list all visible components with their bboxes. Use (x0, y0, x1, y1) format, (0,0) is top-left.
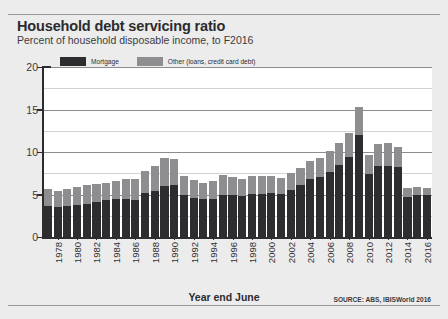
bar-stack (238, 179, 246, 237)
bar-segment-other (394, 147, 402, 167)
x-tick-mark (213, 237, 214, 240)
source-note: SOURCE: ABS, IBISWorld 2016 (334, 296, 431, 303)
bar-segment-other (355, 107, 363, 135)
bar-segment-other (238, 179, 246, 196)
bar-column[interactable] (43, 67, 53, 237)
bar-column[interactable] (412, 67, 422, 237)
bar-column[interactable] (53, 67, 63, 237)
bar-column[interactable] (101, 67, 111, 237)
bar-column[interactable] (237, 67, 247, 237)
bar-segment-other (92, 184, 100, 202)
bar-stack (326, 151, 334, 237)
bar-column[interactable] (315, 67, 325, 237)
x-label-column (43, 240, 53, 288)
bar-stack (228, 177, 236, 237)
bar-segment-mortgage (296, 185, 304, 237)
bar-column[interactable] (208, 67, 218, 237)
x-tick-mark (77, 237, 78, 240)
legend-swatch-icon (60, 57, 86, 66)
bar-stack (170, 159, 178, 237)
bar-column[interactable] (160, 67, 170, 237)
x-label-column: 1998 (247, 240, 257, 288)
x-label-column: 2014 (403, 240, 413, 288)
bar-column[interactable] (199, 67, 209, 237)
x-tick-label-2000: 2000 (266, 242, 277, 263)
x-tick-label-1990: 1990 (169, 242, 180, 263)
x-tick-mark (310, 237, 311, 240)
x-tick-label-1998: 1998 (246, 242, 257, 263)
bar-segment-other (287, 173, 295, 190)
bar-column[interactable] (92, 67, 102, 237)
bar-segment-mortgage (258, 194, 266, 237)
x-label-column: 1990 (169, 240, 179, 288)
bar-column[interactable] (150, 67, 160, 237)
y-tick-label-20: 20 (0, 61, 38, 73)
bar-column[interactable] (373, 67, 383, 237)
bar-stack (131, 179, 139, 237)
bar-column[interactable] (189, 67, 199, 237)
bar-column[interactable] (393, 67, 403, 237)
bar-stack (102, 183, 110, 237)
x-label-column (218, 240, 228, 288)
bar-column[interactable] (130, 67, 140, 237)
x-tick-mark (330, 237, 331, 240)
bar-column[interactable] (354, 67, 364, 237)
x-label-column: 2000 (267, 240, 277, 288)
bar-column[interactable] (247, 67, 257, 237)
bar-column[interactable] (228, 67, 238, 237)
legend-label: Other (loans, credit card debt) (168, 58, 256, 65)
x-tick-mark (194, 237, 195, 240)
bar-segment-other (403, 188, 411, 197)
bar-series-group (43, 67, 432, 237)
bar-column[interactable] (325, 67, 335, 237)
bar-segment-mortgage (355, 135, 363, 237)
bar-column[interactable] (179, 67, 189, 237)
bar-segment-mortgage (151, 191, 159, 237)
legend-item-other: Other (loans, credit card debt) (137, 57, 256, 66)
bar-column[interactable] (169, 67, 179, 237)
bar-column[interactable] (121, 67, 131, 237)
bar-column[interactable] (267, 67, 277, 237)
bar-column[interactable] (218, 67, 228, 237)
bar-stack (413, 187, 421, 237)
bar-column[interactable] (344, 67, 354, 237)
bar-column[interactable] (383, 67, 393, 237)
bar-segment-other (248, 176, 256, 194)
bar-stack (190, 180, 198, 237)
bar-column[interactable] (422, 67, 432, 237)
bar-stack (54, 191, 62, 237)
x-tick-label-1996: 1996 (227, 242, 238, 263)
x-axis-line (42, 237, 432, 239)
bar-column[interactable] (296, 67, 306, 237)
bar-segment-mortgage (326, 172, 334, 237)
x-label-column: 2002 (286, 240, 296, 288)
bar-column[interactable] (335, 67, 345, 237)
bar-segment-mortgage (316, 177, 324, 237)
x-tick-label-2006: 2006 (324, 242, 335, 263)
bar-stack (365, 155, 373, 237)
bar-stack (92, 184, 100, 237)
bar-segment-other (296, 168, 304, 185)
bar-column[interactable] (72, 67, 82, 237)
bar-column[interactable] (62, 67, 72, 237)
bar-column[interactable] (286, 67, 296, 237)
bar-column[interactable] (257, 67, 267, 237)
bar-column[interactable] (111, 67, 121, 237)
bar-segment-mortgage (131, 200, 139, 237)
bar-column[interactable] (82, 67, 92, 237)
x-tick-label-2010: 2010 (363, 242, 374, 263)
bar-stack (209, 181, 217, 237)
bar-column[interactable] (403, 67, 413, 237)
bar-segment-mortgage (209, 199, 217, 237)
bar-segment-mortgage (413, 195, 421, 237)
bar-column[interactable] (364, 67, 374, 237)
x-label-column: 1984 (111, 240, 121, 288)
bar-column[interactable] (305, 67, 315, 237)
bar-segment-mortgage (199, 199, 207, 237)
bar-column[interactable] (276, 67, 286, 237)
bar-segment-mortgage (160, 186, 168, 237)
bar-column[interactable] (140, 67, 150, 237)
bar-segment-other (122, 179, 130, 199)
x-label-column: 2008 (344, 240, 354, 288)
bar-stack (316, 158, 324, 237)
